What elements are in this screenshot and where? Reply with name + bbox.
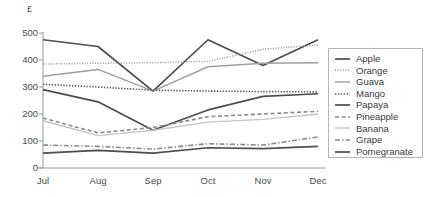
- legend-label: Apple: [356, 54, 380, 64]
- legend-label: Pineapple: [356, 112, 398, 122]
- legend-label: Pomegranate: [356, 147, 413, 157]
- legend-label: Grape: [356, 135, 382, 145]
- legend-swatch-banana-icon: [334, 123, 351, 133]
- series-line-orange: [43, 45, 318, 64]
- series-line-apple: [43, 40, 318, 91]
- legend-swatch-grape-icon: [334, 135, 351, 145]
- legend-swatch-apple-icon: [334, 54, 351, 64]
- chart-legend: AppleOrangeGuavaMangoPapayaPineappleBana…: [328, 48, 423, 158]
- legend-item-guava[interactable]: Guava: [329, 76, 422, 88]
- legend-swatch-pomegranate-icon: [334, 147, 351, 157]
- legend-swatch-pineapple-icon: [334, 112, 351, 122]
- series-line-pineapple: [43, 111, 318, 133]
- series-line-papaya: [43, 90, 318, 131]
- legend-label: Banana: [356, 124, 389, 134]
- legend-item-banana[interactable]: Banana: [329, 123, 422, 135]
- legend-item-apple[interactable]: Apple: [329, 53, 422, 65]
- legend-item-mango[interactable]: Mango: [329, 88, 422, 100]
- legend-item-pineapple[interactable]: Pineapple: [329, 111, 422, 123]
- legend-label: Orange: [356, 66, 388, 76]
- legend-item-grape[interactable]: Grape: [329, 134, 422, 146]
- legend-swatch-guava-icon: [334, 77, 351, 87]
- legend-swatch-mango-icon: [334, 89, 351, 99]
- legend-swatch-papaya-icon: [334, 100, 351, 110]
- legend-item-orange[interactable]: Orange: [329, 65, 422, 77]
- line-chart: £ 0100200300400500 JulAugSepOctNovDec Ap…: [0, 0, 426, 197]
- series-line-mango: [43, 84, 318, 92]
- legend-item-pomegranate[interactable]: Pomegranate: [329, 146, 422, 158]
- legend-swatch-orange-icon: [334, 65, 351, 75]
- series-line-pomegranate: [43, 146, 318, 153]
- legend-item-papaya[interactable]: Papaya: [329, 99, 422, 111]
- legend-label: Papaya: [356, 100, 388, 110]
- legend-label: Mango: [356, 89, 385, 99]
- legend-label: Guava: [356, 77, 384, 87]
- series-line-banana: [43, 114, 318, 136]
